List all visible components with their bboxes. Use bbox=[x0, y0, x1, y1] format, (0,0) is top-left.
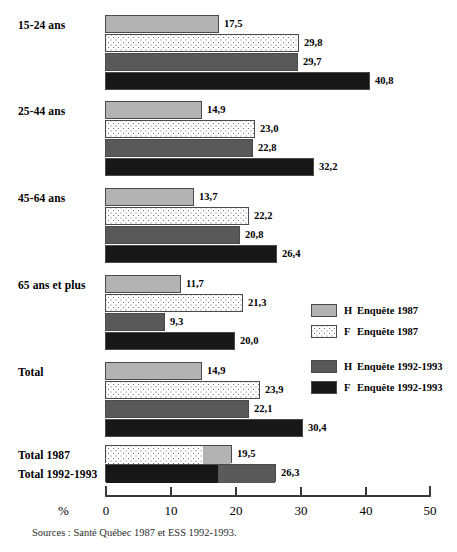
bar-value-65-plus-f87: 21,3 bbox=[248, 294, 266, 312]
legend-swatch-h87 bbox=[311, 304, 337, 317]
stacked-bar-total-1987 bbox=[105, 445, 232, 463]
bar-value-25-44-f92: 32,2 bbox=[319, 158, 337, 176]
bar-value-25-44-f87: 23,0 bbox=[260, 120, 278, 138]
x-axis-unit-label: % bbox=[58, 503, 69, 519]
x-axis-label-10: 10 bbox=[156, 503, 186, 519]
bar-value-15-24-f92: 40,8 bbox=[375, 72, 393, 90]
group-label-total: Total bbox=[18, 366, 44, 378]
x-axis-tick-10 bbox=[170, 487, 172, 495]
group-label-total-1992-1993: Total 1992-1993 bbox=[18, 468, 97, 480]
bar-total-f87 bbox=[105, 381, 260, 399]
stacked-seg-1992-h92 bbox=[218, 465, 275, 483]
bar-15-24-f92 bbox=[105, 72, 370, 90]
group-label-total-1987: Total 1987 bbox=[18, 449, 70, 461]
bar-45-64-f87 bbox=[105, 207, 249, 225]
stacked-seg-1987-f87 bbox=[106, 446, 203, 464]
bar-25-44-h92 bbox=[105, 139, 253, 157]
bar-25-44-h87 bbox=[105, 101, 202, 119]
legend-label-h87: Enquête 1987 bbox=[357, 304, 418, 317]
legend-label-h92: Enquête 1992-1993 bbox=[357, 360, 442, 373]
stacked-seg-1992-f92 bbox=[106, 465, 218, 483]
source-note: Sources : Santé Québec 1987 et ESS 1992-… bbox=[32, 527, 237, 538]
bar-value-45-64-h87: 13,7 bbox=[199, 188, 217, 206]
stacked-value-total-1987: 19,5 bbox=[237, 445, 255, 463]
legend-swatch-f87 bbox=[311, 325, 337, 338]
bar-value-65-plus-h92: 9,3 bbox=[170, 313, 183, 331]
bar-65-plus-f87 bbox=[105, 294, 243, 312]
bar-value-65-plus-f92: 20,0 bbox=[240, 332, 258, 350]
x-axis-label-40: 40 bbox=[351, 503, 381, 519]
bar-15-24-f87 bbox=[105, 34, 299, 52]
legend-label-f92: Enquête 1992-1993 bbox=[357, 381, 442, 394]
bar-65-plus-h92 bbox=[105, 313, 165, 331]
bar-25-44-f92 bbox=[105, 158, 314, 176]
bar-value-total-f92: 30,4 bbox=[308, 419, 326, 437]
bar-value-total-h92: 22,1 bbox=[254, 400, 272, 418]
x-axis-tick-50 bbox=[429, 486, 431, 495]
x-axis-label-30: 30 bbox=[286, 503, 316, 519]
bar-15-24-h92 bbox=[105, 53, 298, 71]
bar-65-plus-h87 bbox=[105, 275, 181, 293]
legend-sex-f92: F bbox=[344, 381, 350, 394]
x-axis-label-0: 0 bbox=[91, 503, 121, 519]
stacked-value-total-1992-1993: 26,3 bbox=[281, 464, 299, 482]
legend-label-f87: Enquête 1987 bbox=[357, 325, 418, 338]
bar-value-15-24-h92: 29,7 bbox=[303, 53, 321, 71]
bar-45-64-f92 bbox=[105, 245, 277, 263]
stacked-bar-total-1992-1993 bbox=[105, 464, 276, 482]
bar-total-f92 bbox=[105, 419, 303, 437]
x-axis-tick-30 bbox=[300, 487, 302, 495]
x-axis-line bbox=[105, 495, 431, 497]
legend-sex-h87: H bbox=[344, 304, 352, 317]
bar-total-h92 bbox=[105, 400, 249, 418]
bar-value-45-64-f92: 26,4 bbox=[282, 245, 300, 263]
group-label-45-64: 45-64 ans bbox=[18, 192, 65, 204]
group-label-25-44: 25-44 ans bbox=[18, 105, 65, 117]
x-axis-label-20: 20 bbox=[221, 503, 251, 519]
stacked-seg-1987-h87 bbox=[203, 446, 231, 464]
x-axis-tick-0 bbox=[105, 486, 107, 495]
legend-swatch-f92 bbox=[311, 381, 337, 394]
bar-value-total-f87: 23,9 bbox=[265, 381, 283, 399]
bar-total-h87 bbox=[105, 362, 202, 380]
bar-chart: 15-24 ans 17,5 29,8 29,7 40,8 25-44 ans … bbox=[0, 0, 457, 552]
group-label-65-plus: 65 ans et plus bbox=[18, 279, 86, 291]
bar-value-45-64-h92: 20,8 bbox=[245, 226, 263, 244]
bar-value-total-h87: 14,9 bbox=[207, 362, 225, 380]
x-axis-tick-40 bbox=[365, 487, 367, 495]
legend-sex-h92: H bbox=[344, 360, 352, 373]
bar-value-25-44-h87: 14,9 bbox=[207, 101, 225, 119]
bar-value-65-plus-h87: 11,7 bbox=[186, 275, 204, 293]
bar-value-25-44-h92: 22,8 bbox=[258, 139, 276, 157]
bar-value-15-24-h87: 17,5 bbox=[224, 15, 242, 33]
bar-45-64-h87 bbox=[105, 188, 194, 206]
bar-65-plus-f92 bbox=[105, 332, 235, 350]
bar-15-24-h87 bbox=[105, 15, 219, 33]
bar-25-44-f87 bbox=[105, 120, 255, 138]
group-label-15-24: 15-24 ans bbox=[18, 19, 65, 31]
bar-45-64-h92 bbox=[105, 226, 240, 244]
bar-value-15-24-f87: 29,8 bbox=[304, 34, 322, 52]
x-axis-label-50: 50 bbox=[415, 503, 445, 519]
legend-sex-f87: F bbox=[344, 325, 350, 338]
legend-swatch-h92 bbox=[311, 360, 337, 373]
x-axis-tick-20 bbox=[235, 487, 237, 495]
bar-value-45-64-f87: 22,2 bbox=[254, 207, 272, 225]
